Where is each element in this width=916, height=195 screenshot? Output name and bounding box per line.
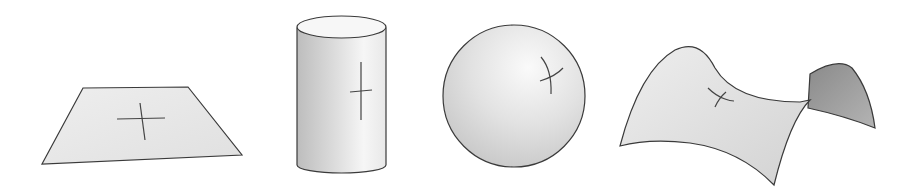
plane-surface: [42, 87, 242, 164]
surfaces-diagram: [0, 0, 916, 195]
saddle-surface: [620, 47, 810, 185]
plane-shape: [42, 87, 242, 164]
cylinder-top: [297, 16, 386, 38]
cylinder-shape: [297, 16, 386, 173]
saddle-underside: [808, 64, 875, 128]
surfaces-figure: Four surfaces with tangent cross marks: [0, 0, 916, 195]
cylinder-body: [297, 28, 386, 173]
sphere-shape: [443, 25, 585, 167]
saddle-shape: [620, 47, 875, 185]
sphere-surface: [443, 25, 585, 167]
